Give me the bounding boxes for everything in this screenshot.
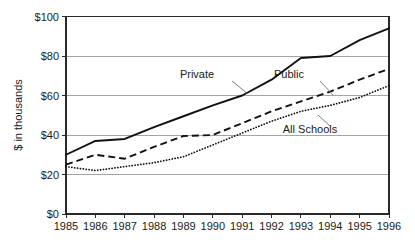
x-axis-tick-label: 1992: [259, 220, 283, 232]
y-axis-tick-label: $0: [47, 208, 59, 220]
series-label-private: Private: [180, 68, 214, 80]
y-axis-tick-label: $40: [41, 129, 59, 141]
x-axis-tick-label: 1985: [54, 220, 78, 232]
series-label-public: Public: [274, 68, 304, 80]
x-axis-tick-label: 1991: [230, 220, 254, 232]
y-axis-title: $ in thousands: [12, 79, 24, 151]
x-axis-tick-label: 1987: [112, 220, 136, 232]
y-axis-tick-label: $100: [35, 11, 59, 23]
x-axis-tick-label: 1988: [142, 220, 166, 232]
x-axis-tick-label: 1995: [347, 220, 371, 232]
chart-background: [0, 0, 415, 248]
x-axis-tick-label: 1993: [289, 220, 313, 232]
series-label-all-schools: All Schools: [283, 123, 338, 135]
x-axis-tick-label: 1990: [201, 220, 225, 232]
x-axis-tick-label: 1986: [83, 220, 107, 232]
chart-container: $0$20$40$60$80$100 198519861987198819891…: [0, 0, 415, 248]
y-axis-tick-label: $20: [41, 169, 59, 181]
x-axis-tick-label: 1989: [171, 220, 195, 232]
line-chart: $0$20$40$60$80$100 198519861987198819891…: [0, 0, 415, 248]
x-axis-tick-label: 1996: [377, 220, 401, 232]
x-axis-tick-label: 1994: [318, 220, 342, 232]
y-axis-tick-label: $60: [41, 90, 59, 102]
y-axis-tick-label: $80: [41, 50, 59, 62]
